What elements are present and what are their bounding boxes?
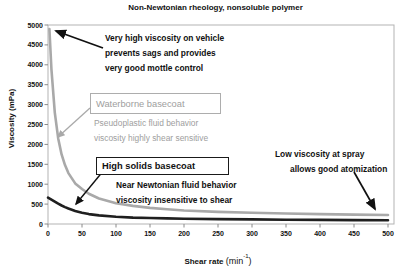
waterborne-basecoat-box: Waterborne basecoat — [90, 93, 221, 114]
x-tick-label: 0 — [46, 230, 50, 237]
annotation-line: allows good atomization — [275, 162, 387, 177]
x-tick-label: 350 — [280, 230, 292, 237]
high-solids-basecoat-label: High solids basecoat — [102, 161, 195, 171]
y-tick-label: 5000 — [27, 22, 43, 29]
rheology-chart-figure: Non-Newtonian rheology, nonsoluble polym… — [0, 0, 403, 274]
y-tick-label: 4500 — [27, 41, 43, 48]
annotation-line: Pseudoplastic fluid behavior — [94, 116, 208, 131]
annotation-very-high-viscosity: Very high viscosity on vehicle prevents … — [105, 31, 224, 76]
annotation-line: viscosity insensitive to shear — [116, 193, 237, 208]
annotation-line: Low viscosity at spray — [275, 147, 387, 162]
annotation-low-viscosity: Low viscosity at spray allows good atomi… — [275, 147, 387, 177]
waterborne-basecoat-label: Waterborne basecoat — [96, 99, 185, 109]
y-tick-label: 1000 — [27, 181, 43, 188]
annotation-line: prevents sags and provides — [105, 46, 224, 61]
low-viscosity-arrow — [354, 172, 375, 209]
high-solids-basecoat-box: High solids basecoat — [96, 157, 229, 175]
x-tick-label: 450 — [348, 230, 360, 237]
y-tick-label: 2500 — [27, 121, 43, 128]
y-axis-title: Viscosity (mPa) — [7, 61, 16, 176]
annotation-line: Near Newtonian fluid behavior — [116, 178, 237, 193]
x-tick-label: 300 — [246, 230, 258, 237]
x-tick-label: 150 — [144, 230, 156, 237]
x-tick-label: 50 — [78, 230, 86, 237]
annotation-line: viscosity highly shear sensitive — [94, 131, 208, 146]
very-high-viscosity-arrow — [56, 31, 103, 48]
annotation-pseudoplastic: Pseudoplastic fluid behavior viscosity h… — [94, 116, 208, 146]
y-tick-label: 0 — [39, 221, 43, 228]
y-tick-label: 500 — [31, 201, 43, 208]
x-tick-label: 400 — [314, 230, 326, 237]
y-tick-label: 1500 — [27, 161, 43, 168]
x-tick-label: 200 — [178, 230, 190, 237]
annotation-near-newtonian: Near Newtonian fluid behavior viscosity … — [116, 178, 237, 208]
x-tick-label: 100 — [110, 230, 122, 237]
y-tick-label: 3000 — [27, 101, 43, 108]
waterborne-leader-arrow — [58, 108, 90, 137]
y-tick-label: 4000 — [27, 61, 43, 68]
annotation-line: very good mottle control — [105, 61, 224, 76]
y-axis-title-text: Viscosity (mPa) — [7, 89, 16, 148]
annotation-line: Very high viscosity on vehicle — [105, 31, 224, 46]
x-tick-label: 250 — [212, 230, 224, 237]
x-tick-label: 500 — [382, 230, 394, 237]
y-tick-label: 2000 — [27, 141, 43, 148]
y-tick-label: 3500 — [27, 81, 43, 88]
x-axis-title-text: Shear rate — [184, 257, 225, 266]
x-axis-unit-open: (min — [226, 256, 244, 266]
x-axis-title: Shear rate (min-1) — [48, 250, 388, 268]
x-axis-unit-close: ) — [249, 256, 252, 266]
